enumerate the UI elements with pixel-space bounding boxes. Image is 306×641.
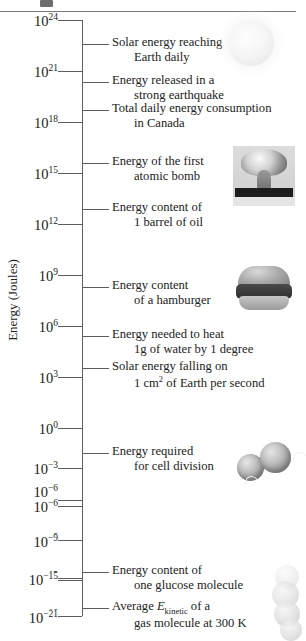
annotation-heat-water: Energy needed to heat 1g of water by 1 d… — [112, 327, 298, 357]
annotation-line1: Energy released in a — [112, 73, 214, 87]
annotation-line1: Total daily energy consumption — [112, 101, 271, 115]
annotation-line2-rendered: 1 cm2 of Earth per second — [112, 374, 298, 391]
annotation-tick — [83, 572, 109, 573]
dividing-cell-photo — [236, 440, 292, 484]
annotation-line1: Energy content of — [112, 563, 202, 577]
annotation-line1: Energy of the first — [112, 154, 204, 168]
molecule-sphere — [280, 619, 302, 641]
bomb-horizon — [235, 188, 293, 197]
cell-lobe-right — [260, 442, 291, 473]
annotation-line1: Solar energy reaching — [112, 35, 222, 49]
annotation-hamburger: Energy content of a hamburger — [112, 278, 234, 308]
annotation-tick — [83, 368, 109, 369]
decade-label-minus6b: 10−6 — [0, 484, 58, 499]
annotation-line1: Energy content of — [112, 200, 202, 214]
annotation-tick — [83, 608, 109, 609]
atomic-bomb-photo — [233, 146, 295, 206]
annotation-tick — [83, 110, 109, 111]
annotation-tick — [83, 287, 109, 288]
burger-bottom-bun — [239, 296, 289, 310]
annotation-line2: in Canada — [112, 116, 298, 131]
bomb-ground — [233, 197, 295, 206]
annotation-tick — [83, 209, 109, 210]
annotation-line2: 1 barrel of oil — [112, 215, 298, 230]
annotation-line1: Energy needed to heat — [112, 327, 224, 341]
annotation-tick — [83, 44, 109, 45]
decade-label-minus15b: 10−15 — [0, 572, 58, 587]
annotation-tick — [83, 336, 109, 337]
annotation-line1: Energy content — [112, 278, 188, 292]
annotation-line1-rendered: Average Ekinetic of a — [112, 599, 210, 613]
annotation-earthquake: Energy released in a strong earthquake — [112, 73, 298, 103]
annotation-tick — [83, 163, 109, 164]
decade-label-minus21: 10−21 — [0, 610, 58, 625]
annotation-line2: atomic bomb — [112, 169, 230, 184]
annotation-line2: 1g of water by 1 degree — [112, 342, 298, 357]
annotation-line2: for cell division — [112, 459, 220, 474]
decade-label-minus9b: 10−9 — [0, 534, 58, 549]
annotation-atomic-bomb: Energy of the first atomic bomb — [112, 154, 230, 184]
annotation-tick — [83, 82, 109, 83]
sun-photo — [228, 20, 274, 66]
annotation-solar-cm2: Solar energy falling on 1 cm2 of Earth p… — [112, 359, 298, 391]
hamburger-photo — [236, 264, 292, 314]
annotation-tick — [83, 453, 109, 454]
annotation-line1: Solar energy falling on — [112, 359, 228, 373]
molecule-photo — [268, 565, 302, 632]
annotation-line1: Energy required — [112, 444, 193, 458]
annotation-cell-division: Energy required for cell division — [112, 444, 220, 474]
annotation-line2: of a hamburger — [112, 293, 234, 308]
annotation-canada: Total daily energy consumption in Canada — [112, 101, 298, 131]
